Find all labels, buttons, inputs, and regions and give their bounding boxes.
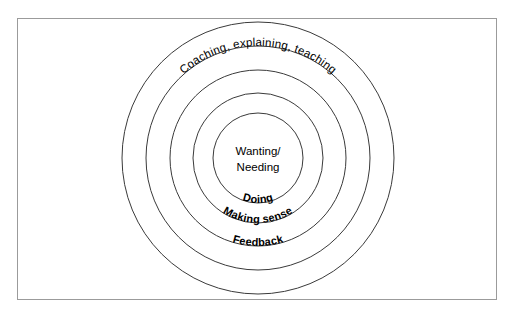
ring-label-feedback-text: Feedback [232,232,285,248]
center-label-line2: Needing [237,161,280,173]
ring-label-making-sense-text: Making sense [222,204,295,225]
circle-ring-5-center [213,113,303,203]
center-label-line1: Wanting/ [236,145,282,157]
concentric-circles-diagram: Coaching, explaining, teaching Feedback … [0,0,516,319]
circle-ring-1-outer [122,22,394,294]
ring-label-making-sense: Making sense [222,204,295,225]
ring-label-feedback: Feedback [232,232,285,248]
ring-label-doing-text: Doing [242,191,275,205]
figure-container: Coaching, explaining, teaching Feedback … [0,0,516,319]
ring-label-doing: Doing [242,191,275,205]
